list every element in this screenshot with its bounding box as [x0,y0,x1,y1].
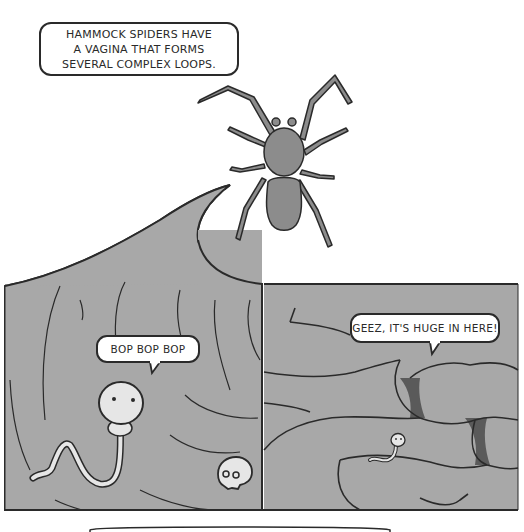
speech-text-right: GEEZ, IT'S HUGE IN HERE! [352,322,498,334]
caption-line-3: SEVERAL COMPLEX LOOPS. [62,57,216,72]
spider-icon [198,75,352,247]
caption-line-2: A VAGINA THAT FORMS [74,42,205,57]
speech-bubble-right: GEEZ, IT'S HUGE IN HERE! [350,313,500,343]
speech-text-left: BOP BOP BOP [111,343,186,355]
caption-box: HAMMOCK SPIDERS HAVE A VAGINA THAT FORMS… [39,22,239,76]
comic-artwork [0,0,524,532]
caption-line-1: HAMMOCK SPIDERS HAVE [66,27,212,42]
speech-bubble-left: BOP BOP BOP [96,335,200,363]
comic-page: HAMMOCK SPIDERS HAVE A VAGINA THAT FORMS… [0,0,524,532]
